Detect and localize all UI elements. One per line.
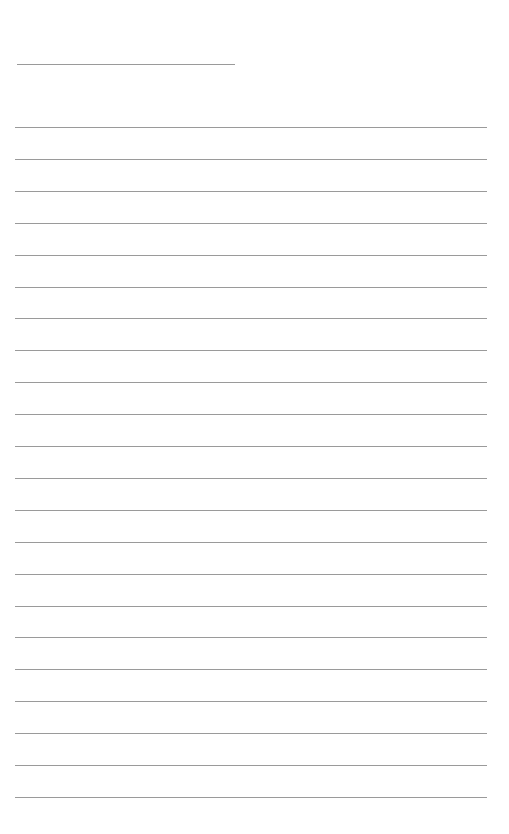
- writing-line: [15, 542, 487, 543]
- writing-line: [15, 606, 487, 607]
- writing-line: [15, 191, 487, 192]
- writing-line: [15, 478, 487, 479]
- writing-line: [15, 797, 487, 798]
- writing-line: [15, 446, 487, 447]
- writing-line: [15, 318, 487, 319]
- writing-line: [15, 287, 487, 288]
- writing-line: [15, 701, 487, 702]
- writing-line: [15, 382, 487, 383]
- writing-line: [15, 350, 487, 351]
- writing-line: [15, 127, 487, 128]
- writing-line: [15, 159, 487, 160]
- writing-line: [15, 414, 487, 415]
- writing-line: [15, 637, 487, 638]
- writing-line: [15, 733, 487, 734]
- title-line: [17, 64, 235, 65]
- writing-line: [15, 223, 487, 224]
- writing-line: [15, 765, 487, 766]
- writing-line: [15, 255, 487, 256]
- writing-line: [15, 510, 487, 511]
- writing-line: [15, 574, 487, 575]
- writing-line: [15, 669, 487, 670]
